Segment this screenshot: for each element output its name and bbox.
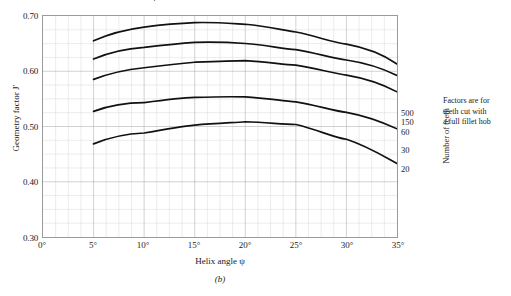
x-tick-label-0: 0° bbox=[24, 241, 60, 250]
x-tick-label-10: 10° bbox=[125, 241, 161, 250]
series-label-150: 150 bbox=[401, 118, 427, 127]
x-tick-label-30: 30° bbox=[329, 241, 365, 250]
series-label-60: 60 bbox=[401, 128, 427, 137]
y-tick-label-0.70: 0.70 bbox=[0, 12, 38, 21]
x-tick-label-20: 20° bbox=[227, 241, 263, 250]
curve-30-teeth bbox=[94, 97, 397, 129]
series-label-20: 20 bbox=[401, 165, 427, 174]
data-curves bbox=[43, 16, 397, 237]
annotation-line-3: a full fillet hob bbox=[443, 117, 511, 128]
y-tick-label-0.40: 0.40 bbox=[0, 178, 38, 187]
x-tick-label-25: 25° bbox=[278, 241, 314, 250]
x-tick-label-5: 5° bbox=[75, 241, 111, 250]
top-caption: total usefulness for one normal diametra… bbox=[44, 0, 304, 1]
x-axis-title: Helix angle ψ bbox=[130, 256, 310, 266]
curve-20-teeth bbox=[94, 122, 397, 164]
annotation-line-2: teeth cut with bbox=[443, 107, 511, 118]
series-label-30: 30 bbox=[401, 146, 427, 155]
annotation-note: Factors are for teeth cut with a full fi… bbox=[443, 96, 511, 128]
y-axis-title-text: Geometry factor J′ bbox=[11, 85, 21, 152]
x-tick-label-15: 15° bbox=[176, 241, 212, 250]
curve-150-teeth bbox=[94, 42, 397, 75]
x-axis-title-text: Helix angle ψ bbox=[195, 256, 245, 266]
figure-root: total usefulness for one normal diametra… bbox=[0, 0, 511, 296]
plot-area bbox=[42, 15, 398, 238]
y-axis-title: Geometry factor J′ bbox=[11, 63, 21, 173]
figure-caption: (b) bbox=[0, 274, 440, 284]
annotation-line-1: Factors are for bbox=[443, 96, 511, 107]
x-tick-label-35: 35° bbox=[380, 241, 416, 250]
curve-60-teeth bbox=[94, 61, 397, 92]
